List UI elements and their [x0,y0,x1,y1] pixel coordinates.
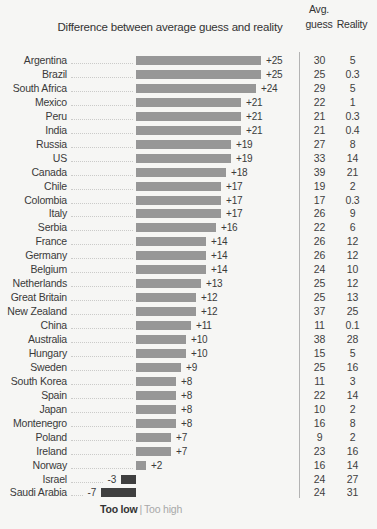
reality-value: 14 [335,459,370,472]
leader-line [71,398,133,399]
leader-line [71,412,133,413]
legend-too-low: Too low [100,503,137,515]
country-label: Brazil [0,68,67,81]
avg-guess-value: 25 [303,68,336,81]
country-label: South Korea [0,375,67,388]
reality-value: 12 [335,249,370,262]
leader-line [71,203,133,204]
diff-bar [136,461,146,470]
diff-bar [136,154,231,163]
avg-guess-value: 11 [303,375,336,388]
diff-bar [136,335,186,344]
avg-guess-value: 9 [303,431,336,444]
diff-value: +8 [181,376,192,388]
reality-value: 8 [335,138,370,151]
leader-line [71,468,133,469]
country-label: US [0,152,67,165]
reality-value: 5 [335,347,370,360]
diff-value: +25 [266,55,282,67]
diff-value: +25 [266,69,282,81]
avg-guess-value: 22 [303,389,336,402]
diff-value: +9 [186,362,197,374]
avg-guess-value: 21 [303,110,336,123]
diff-bar [136,419,176,428]
leader-line [71,105,133,106]
country-label: Canada [0,166,67,179]
country-label: Poland [0,431,67,444]
diff-value: +21 [246,125,262,137]
diff-bar [101,488,136,497]
reality-value: 0.4 [335,124,370,137]
avg-guess-value: 17 [303,194,336,207]
avg-guess-value: 16 [303,459,336,472]
diff-value: +11 [196,320,212,332]
column-header-avg-line1: Avg. [302,2,336,17]
diff-bar [136,56,261,65]
diff-value: +13 [206,278,222,290]
avg-guess-value: 15 [303,347,336,360]
avg-guess-value: 33 [303,152,336,165]
leader-line [71,328,133,329]
reality-value: 5 [335,54,370,67]
country-label: China [0,319,67,332]
reality-value: 0.1 [335,319,370,332]
diff-value: +18 [231,167,247,179]
reality-value: 8 [335,417,370,430]
country-label: France [0,235,67,248]
diff-bar [136,349,186,358]
leader-line [71,133,133,134]
chart-title: Difference between average guess and rea… [55,21,285,33]
avg-guess-value: 22 [303,221,336,234]
diff-value: +21 [246,97,262,109]
reality-value: 1 [335,96,370,109]
country-label: Italy [0,207,67,220]
diff-bar [136,265,206,274]
diff-bar [136,168,226,177]
country-label: Germany [0,249,67,262]
reality-value: 12 [335,235,370,248]
diff-bar [136,251,206,260]
reality-value: 6 [335,221,370,234]
country-label: Peru [0,110,67,123]
country-label: Montenegro [0,417,67,430]
reality-value: 0.3 [335,68,370,81]
leader-line [71,482,103,483]
leader-line [71,286,133,287]
diff-bar [136,70,261,79]
diff-value: +10 [191,348,207,360]
diff-bar [136,307,196,316]
diff-value: +17 [226,181,242,193]
reality-value: 10 [335,263,370,276]
avg-guess-value: 25 [303,291,336,304]
diff-value: +8 [181,390,192,402]
avg-guess-value: 24 [303,473,336,486]
avg-guess-value: 25 [303,361,336,374]
avg-guess-value: 39 [303,166,336,179]
diff-bar [136,112,241,121]
avg-guess-value: 27 [303,138,336,151]
reality-value: 3 [335,375,370,388]
country-label: Belgium [0,263,67,276]
avg-guess-value: 19 [303,180,336,193]
country-label: Norway [0,459,67,472]
diff-bar [136,98,241,107]
diff-value: +7 [176,446,187,458]
reality-value: 16 [335,445,370,458]
leader-line [71,314,133,315]
diff-value: +8 [181,418,192,430]
avg-guess-value: 22 [303,96,336,109]
country-label: Netherlands [0,277,67,290]
leader-line [71,161,133,162]
reality-value: 0.3 [335,110,370,123]
avg-guess-value: 25 [303,277,336,290]
guess-vs-reality-chart: Difference between average guess and rea… [0,0,377,529]
leader-line [71,175,133,176]
country-label: Colombia [0,194,67,207]
diff-bar [136,377,176,386]
avg-guess-value: 10 [303,403,336,416]
diff-value: +14 [211,264,227,276]
avg-guess-value: 30 [303,54,336,67]
country-label: Serbia [0,221,67,234]
diff-value: +17 [226,195,242,207]
leader-line [71,384,133,385]
